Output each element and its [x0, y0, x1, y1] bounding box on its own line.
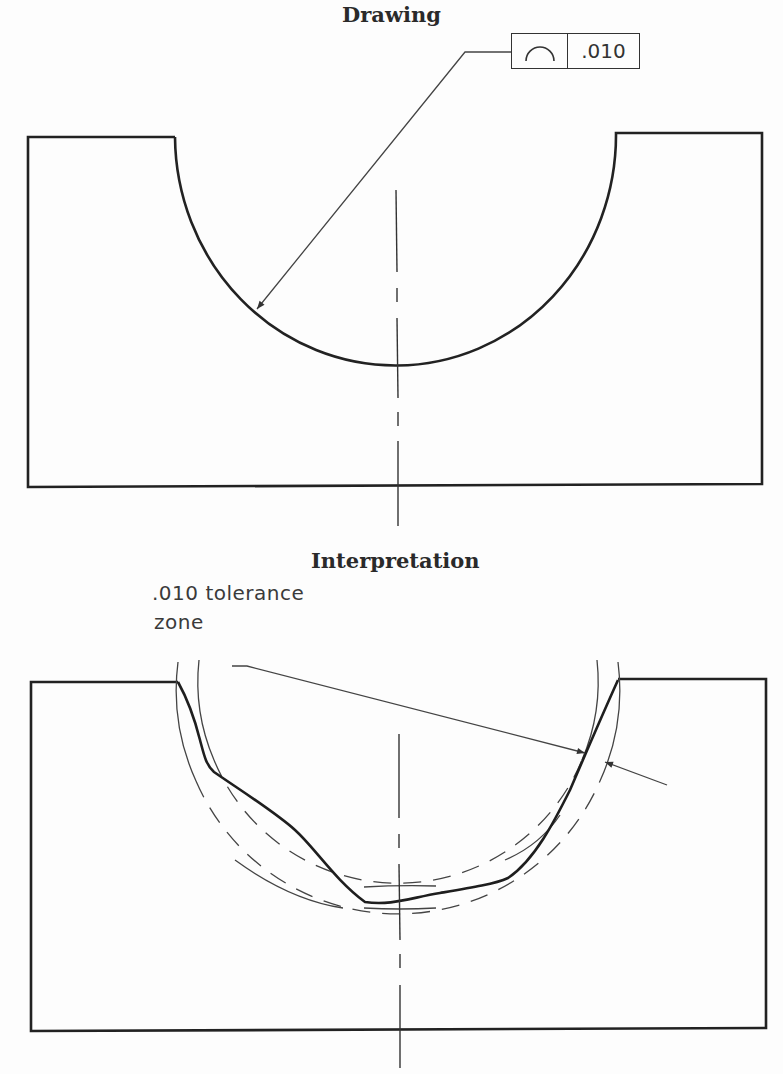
- tolerance-zone-inner-boundary: [198, 660, 598, 883]
- tolerance-zone-label-line2: zone: [154, 610, 204, 634]
- interpretation-part-outline: [31, 679, 766, 1031]
- tolerance-zone-bottom-arcs: [235, 815, 560, 909]
- tolerance-zone-leader-arrow: [232, 666, 667, 785]
- centerline-bottom: [399, 734, 400, 1068]
- interpretation-title: Interpretation: [311, 548, 480, 573]
- centerline-top: [396, 190, 398, 526]
- tolerance-zone-label-line1: .010 tolerance: [152, 581, 304, 605]
- actual-surface-profile: [178, 680, 618, 903]
- fcf-leader-arrow: [257, 52, 511, 309]
- tolerance-zone-outer-boundary: [176, 662, 620, 914]
- drawing-part-outline: [28, 133, 762, 487]
- technical-drawing-canvas: [0, 0, 783, 1074]
